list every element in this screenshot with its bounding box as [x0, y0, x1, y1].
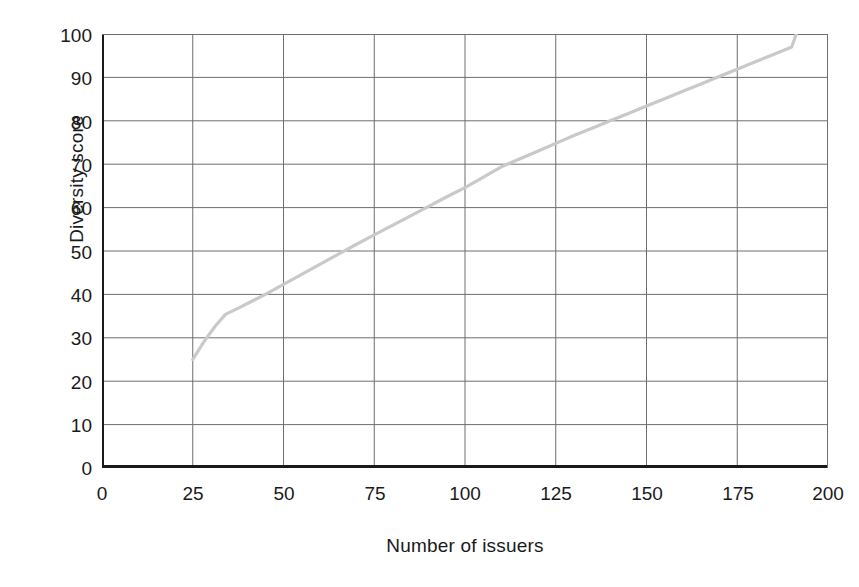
x-tick-label: 100: [425, 484, 505, 503]
gridlines: [102, 34, 828, 468]
x-tick-label: 0: [62, 484, 142, 503]
x-tick-label: 150: [607, 484, 687, 503]
x-tick-label: 75: [335, 484, 415, 503]
x-tick-label: 200: [788, 484, 859, 503]
x-tick-label: 25: [153, 484, 233, 503]
chart-figure: Diversity score 100 90 80 70 60 50 40 30…: [0, 0, 859, 587]
plot-area: [102, 34, 828, 468]
x-tick-label: 175: [698, 484, 778, 503]
x-tick-label: 125: [516, 484, 596, 503]
plot-svg: [102, 34, 828, 468]
x-axis-title: Number of issuers: [102, 535, 828, 557]
x-tick-label: 50: [244, 484, 324, 503]
